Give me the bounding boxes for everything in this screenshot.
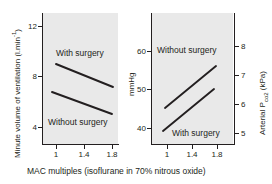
- left-xtick-mark-0: [56, 145, 57, 149]
- mid-ytick-label-2: 40: [126, 124, 146, 133]
- left-xtick-mark-2: [112, 145, 113, 149]
- right-xtick-mark-1: [192, 145, 193, 149]
- right-ytick-label-0: 8: [241, 42, 255, 51]
- left-y-axis-title: Minute volume of ventilation (l.min-1): [10, 29, 22, 158]
- left-xtick-mark-1: [84, 145, 85, 149]
- right-without-surgery-label: Without surgery: [157, 45, 217, 55]
- left-xtick-label-2: 1.8: [102, 150, 122, 159]
- left-y-axis-title-text: Minute volume of ventilation (l.min: [13, 37, 22, 158]
- right-ytick-mark-1: [235, 75, 239, 76]
- left-ytick-mark-0: [38, 26, 42, 27]
- left-with-surgery-label: With surgery: [56, 48, 104, 58]
- left-y-axis-title-exponent: -1: [11, 32, 17, 37]
- right-ytick-label-2: 6: [241, 100, 255, 109]
- right-xtick-label-1: 1.4: [182, 150, 202, 159]
- right-y-axis-title-head: Arterial P: [258, 102, 267, 135]
- right-y-axis-title-tail: (kPa): [258, 71, 267, 92]
- right-y-axis-title: Arterial Pco2 (kPa): [258, 71, 271, 135]
- right-ytick-mark-3: [235, 133, 239, 134]
- right-ytick-mark-0: [235, 46, 239, 47]
- right-xtick-mark-2: [217, 145, 218, 149]
- mid-ytick-mark-2: [147, 128, 151, 129]
- right-with-surgery-label: With surgery: [172, 128, 220, 138]
- mid-y-axis-title: mmHg: [127, 72, 136, 96]
- mid-ytick-mark-0: [147, 51, 151, 52]
- left-panel-y-axis: [42, 13, 43, 145]
- left-panel-x-axis: [42, 144, 119, 145]
- right-xtick-label-0: 1: [157, 150, 177, 159]
- chart-figure: 12 8 4 1 1.4 1.8 Minute volume of ventil…: [0, 0, 272, 184]
- right-ytick-mark-2: [235, 104, 239, 105]
- left-without-surgery-label: Without surgery: [48, 117, 108, 127]
- mid-ytick-label-0: 60: [126, 47, 146, 56]
- left-y-axis-title-close: ): [13, 29, 22, 32]
- left-ytick-mark-1: [38, 76, 42, 77]
- mid-ytick-mark-1: [147, 89, 151, 90]
- right-xtick-label-2: 1.8: [207, 150, 227, 159]
- left-xtick-label-1: 1.4: [74, 150, 94, 159]
- left-xtick-label-0: 1: [46, 150, 66, 159]
- right-ytick-label-3: 5: [241, 129, 255, 138]
- right-panel-right-y-axis: [234, 13, 235, 145]
- right-panel-left-y-axis: [151, 13, 152, 145]
- arterial-pco2-plot-area: [152, 13, 233, 144]
- right-y-axis-title-sub2: 2: [263, 92, 269, 95]
- right-y-axis-title-sub: co: [263, 96, 269, 102]
- right-ytick-label-1: 7: [241, 71, 255, 80]
- x-axis-title: MAC multiples (isoflurane in 70% nitrous…: [27, 166, 206, 176]
- left-ytick-mark-2: [38, 127, 42, 128]
- right-xtick-mark-0: [167, 145, 168, 149]
